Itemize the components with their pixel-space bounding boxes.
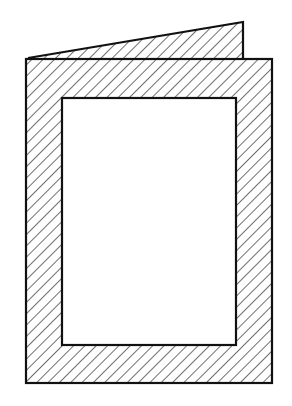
window-cutout: [62, 98, 236, 345]
card-diagram: [0, 0, 292, 406]
card-drawing: [0, 0, 292, 406]
